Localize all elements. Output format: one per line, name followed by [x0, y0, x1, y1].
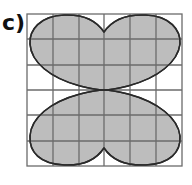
grid-figure [0, 0, 192, 185]
